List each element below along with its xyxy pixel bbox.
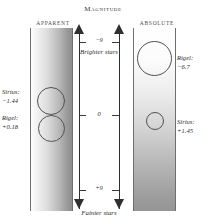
scale-axis-left bbox=[79, 33, 80, 209]
apparent-rigel-circle bbox=[38, 115, 65, 142]
scale-arrow-down-right bbox=[114, 199, 124, 209]
annotation-apparent-rigel: Rigel: +0.18 bbox=[2, 114, 30, 131]
absolute-sirius-circle bbox=[146, 112, 164, 130]
absolute-gradient-band bbox=[133, 28, 176, 211]
scale-axis-right bbox=[119, 33, 120, 209]
annotation-absolute-rigel: Rigel: −6.7 bbox=[177, 54, 206, 71]
brighter-stars-note: Brighter stars bbox=[80, 48, 118, 56]
apparent-gradient-band bbox=[30, 28, 73, 211]
diagram-title: Magnitude bbox=[0, 5, 206, 13]
annotation-apparent-sirius: Sirius: −1.44 bbox=[2, 88, 30, 105]
annotation-absolute-sirius: Sirius: +1.45 bbox=[177, 118, 206, 135]
column-header-absolute: ABSOLUTE bbox=[122, 20, 192, 26]
scale-label-middle: 0 bbox=[79, 110, 119, 117]
absolute-rigel-circle bbox=[137, 41, 172, 76]
apparent-sirius-circle bbox=[37, 87, 65, 115]
scale-label-bottom: +9 bbox=[79, 184, 119, 191]
magnitude-diagram: Magnitude APPARENT ABSOLUTE −9 0 +9 Brig… bbox=[0, 0, 206, 219]
scale-arrow-down-left bbox=[74, 199, 84, 209]
scale-label-top: −9 bbox=[79, 36, 119, 43]
fainter-stars-note: Fainter stars bbox=[48, 209, 150, 216]
